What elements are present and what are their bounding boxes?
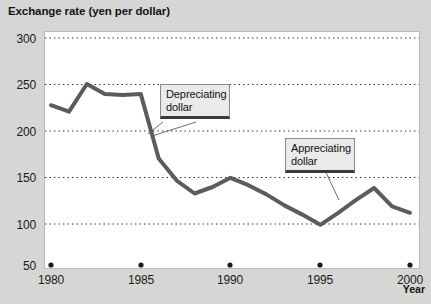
ytick-label-300: 300 [2, 32, 36, 46]
chart-canvas [0, 0, 431, 304]
ytick-label-250: 250 [2, 78, 36, 92]
axis-dot-1990 [227, 262, 232, 267]
axis-dot-1985 [138, 262, 143, 267]
axis-marker-dots-group [48, 262, 412, 267]
annotation-appreciating-line1: Appreciating [291, 142, 351, 154]
xtick-label-1985: 1985 [116, 273, 166, 287]
axis-dot-1995 [317, 262, 322, 267]
xaxis-title: Year [403, 283, 425, 295]
annotation-depreciating-line1: Depreciating [166, 88, 227, 100]
annotation-depreciating-dollar: Depreciating dollar [160, 84, 230, 119]
ytick-label-150: 150 [2, 171, 36, 185]
leader-line-depreciating-b [152, 122, 196, 136]
annotation-appreciating-line2: dollar [291, 155, 349, 168]
xtick-label-1990: 1990 [205, 273, 255, 287]
xtick-label-1980: 1980 [26, 273, 76, 287]
axis-dot-2000 [407, 262, 412, 267]
annotation-depreciating-line2: dollar [166, 101, 224, 114]
ytick-label-50: 50 [2, 259, 36, 273]
annotation-appreciating-dollar: Appreciating dollar [285, 138, 355, 173]
ytick-label-100: 100 [2, 218, 36, 232]
exchange-rate-chart-figure: Exchange rate (yen per dollar) 300 250 2… [0, 0, 431, 304]
exchange-rate-line [51, 84, 410, 225]
axis-dot-1980 [48, 262, 53, 267]
ytick-label-200: 200 [2, 125, 36, 139]
xtick-label-1995: 1995 [295, 273, 345, 287]
